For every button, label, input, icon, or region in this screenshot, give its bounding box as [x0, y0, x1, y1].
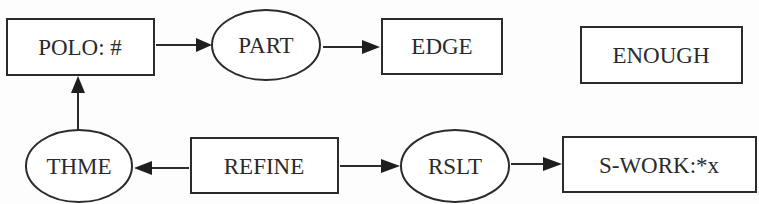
flowchart: POLO: # PART EDGE ENOUGH THME REFINE RSL…: [0, 0, 759, 204]
edge-thme-to-polo: [71, 76, 85, 130]
node-refine-label: REFINE: [224, 154, 305, 179]
node-refine: REFINE: [191, 138, 338, 193]
node-part: PART: [212, 10, 320, 80]
arrowhead-icon: [381, 159, 400, 173]
node-thme-label: THME: [46, 154, 111, 179]
edge-rslt-to-swork: [511, 157, 562, 171]
node-part-label: PART: [238, 33, 293, 58]
node-swork: S-WORK:*x: [563, 137, 756, 192]
node-polo: POLO: #: [7, 19, 154, 75]
node-edge: EDGE: [382, 19, 502, 74]
node-polo-label: POLO: #: [38, 35, 122, 60]
node-rslt: RSLT: [401, 130, 509, 202]
arrowhead-icon: [196, 38, 212, 52]
node-edge-label: EDGE: [411, 34, 472, 59]
node-enough: ENOUGH: [581, 27, 742, 83]
edge-polo-to-part: [156, 38, 212, 52]
edge-refine-to-thme: [134, 161, 189, 175]
arrowhead-icon: [362, 40, 380, 54]
node-swork-label: S-WORK:*x: [599, 153, 720, 178]
arrowhead-icon: [71, 76, 85, 93]
edge-part-to-edge: [323, 40, 380, 54]
node-enough-label: ENOUGH: [612, 43, 709, 68]
node-thme: THME: [26, 130, 132, 202]
diagram-canvas: POLO: # PART EDGE ENOUGH THME REFINE RSL…: [0, 0, 759, 204]
edge-refine-to-rslt: [340, 159, 400, 173]
node-rslt-label: RSLT: [428, 154, 482, 179]
arrowhead-icon: [543, 157, 562, 171]
arrowhead-icon: [134, 161, 152, 175]
